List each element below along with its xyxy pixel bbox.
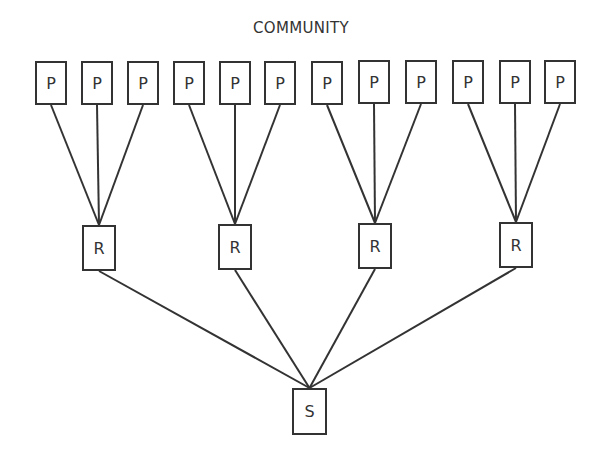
edge-r3-s0	[310, 268, 517, 388]
node-p-11: P	[499, 60, 531, 104]
edge-p1-r0	[97, 105, 99, 225]
node-p-10: P	[452, 60, 484, 104]
node-p-5: P	[219, 61, 251, 105]
edge-p6-r2	[327, 105, 375, 223]
node-p-7: P	[311, 61, 343, 105]
edge-p5-r1	[235, 105, 280, 224]
edge-r1-s0	[235, 270, 310, 388]
edge-p9-r3	[468, 104, 516, 222]
node-p-12: P	[544, 60, 576, 104]
node-p-3: P	[127, 61, 159, 105]
node-r-4: R	[499, 222, 533, 268]
community-hierarchy-diagram: COMMUNITY P P P P P P P P P P P P R R R …	[0, 0, 602, 460]
edge-r0-s0	[99, 271, 310, 388]
node-p-8: P	[358, 60, 390, 104]
node-r-1: R	[82, 225, 116, 271]
edge-p0-r0	[51, 105, 99, 225]
edge-p8-r2	[375, 104, 421, 223]
node-p-9: P	[405, 60, 437, 104]
edge-p2-r0	[99, 105, 143, 225]
node-p-4: P	[173, 61, 205, 105]
edge-p7-r2	[374, 104, 375, 223]
edge-p10-r3	[515, 104, 516, 222]
node-r-3: R	[358, 223, 392, 269]
edge-p11-r3	[516, 104, 560, 222]
edge-p3-r1	[189, 105, 235, 224]
node-p-1: P	[35, 61, 67, 105]
node-p-6: P	[264, 61, 296, 105]
node-s: S	[292, 388, 327, 435]
node-r-2: R	[218, 224, 252, 270]
node-p-2: P	[81, 61, 113, 105]
edge-r2-s0	[310, 269, 376, 388]
